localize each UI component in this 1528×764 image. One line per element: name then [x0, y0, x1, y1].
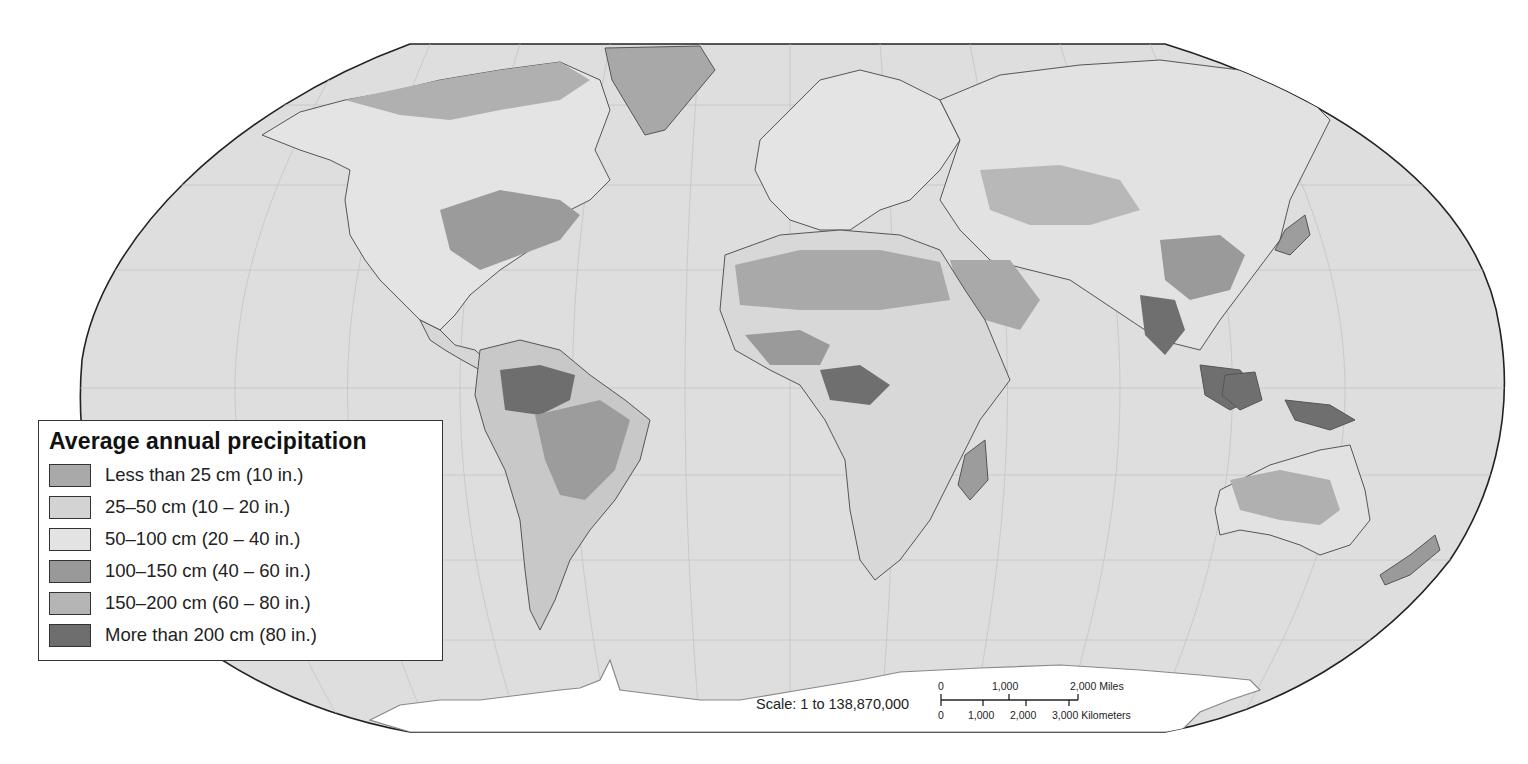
miles-tick: 1,000 [992, 680, 1018, 692]
scale-label: Scale: 1 to 138,870,000 [756, 696, 909, 712]
legend-item: 25–50 cm (10 – 20 in.) [49, 491, 432, 523]
legend-swatch [49, 592, 91, 615]
legend-title: Average annual precipitation [49, 427, 432, 455]
legend-label: 150–200 cm (60 – 80 in.) [105, 592, 311, 614]
legend-swatch [49, 560, 91, 583]
legend-item: 50–100 cm (20 – 40 in.) [49, 523, 432, 555]
km-tick: 3,000 Kilometers [1052, 709, 1131, 721]
legend-item: Less than 25 cm (10 in.) [49, 459, 432, 491]
legend-swatch [49, 464, 91, 487]
legend-label: Less than 25 cm (10 in.) [105, 464, 303, 486]
legend-label: 25–50 cm (10 – 20 in.) [105, 496, 290, 518]
scale-line [938, 692, 1088, 708]
miles-tick: 0 [938, 680, 944, 692]
legend-label: 50–100 cm (20 – 40 in.) [105, 528, 300, 550]
legend: Average annual precipitation Less than 2… [38, 420, 443, 661]
km-tick: 0 [938, 709, 944, 721]
km-tick: 1,000 [968, 709, 994, 721]
legend-label: 100–150 cm (40 – 60 in.) [105, 560, 311, 582]
legend-swatch [49, 496, 91, 519]
legend-swatch [49, 528, 91, 551]
legend-item: 100–150 cm (40 – 60 in.) [49, 555, 432, 587]
legend-swatch [49, 624, 91, 647]
legend-item: 150–200 cm (60 – 80 in.) [49, 587, 432, 619]
scale-bar: Scale: 1 to 138,870,000 0 1,000 2,000 Mi… [752, 676, 1162, 726]
km-tick: 2,000 [1010, 709, 1036, 721]
legend-item: More than 200 cm (80 in.) [49, 619, 432, 651]
region-sahara [735, 250, 950, 310]
miles-tick: 2,000 Miles [1070, 680, 1124, 692]
legend-label: More than 200 cm (80 in.) [105, 624, 317, 646]
